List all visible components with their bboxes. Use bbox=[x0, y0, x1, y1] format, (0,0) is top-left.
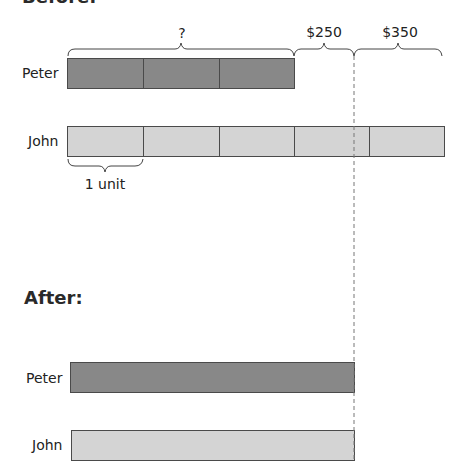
amount-250-brace bbox=[294, 43, 354, 56]
brace-overlay bbox=[0, 0, 464, 474]
unknown-brace bbox=[68, 43, 294, 56]
amount-350-brace bbox=[354, 43, 442, 56]
unit-brace bbox=[68, 159, 143, 172]
